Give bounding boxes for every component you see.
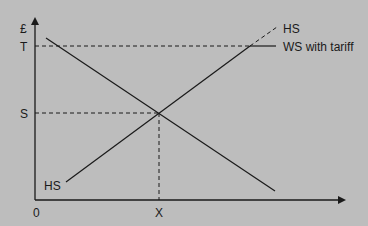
tick-label-x: X: [155, 206, 163, 220]
demand-curve: [46, 38, 275, 191]
y-axis-label: £: [20, 22, 27, 36]
origin-label: 0: [33, 206, 40, 220]
tick-label-s: S: [20, 107, 28, 121]
home-supply-curve: [66, 46, 250, 182]
y-axis-arrow-icon: [31, 17, 39, 25]
tariff-diagram: £ T S 0 X HS HS WS with tariff: [0, 0, 368, 226]
home-supply-label-top: HS: [283, 22, 300, 36]
tick-label-t: T: [20, 40, 28, 54]
world-supply-tariff-label: WS with tariff: [283, 40, 354, 54]
home-supply-curve-extension: [250, 27, 277, 46]
y-axis: [31, 17, 39, 200]
home-supply-label-bottom: HS: [44, 179, 61, 193]
x-axis: [35, 196, 346, 204]
x-axis-arrow-icon: [338, 196, 346, 204]
